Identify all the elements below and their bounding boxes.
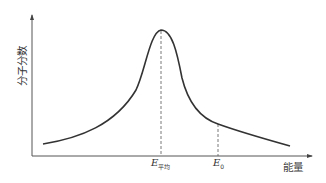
tick-e-avg-sub: 平均 <box>158 163 170 170</box>
tick-e-avg: E平均 <box>151 157 170 171</box>
x-axis-label: 能量 <box>283 159 303 174</box>
y-axis-label: 分子分数 <box>14 46 29 86</box>
tick-e0-sub: 0 <box>220 163 224 170</box>
chart-canvas <box>0 0 326 183</box>
distribution-curve <box>43 30 290 146</box>
tick-e0: E0 <box>213 157 224 170</box>
